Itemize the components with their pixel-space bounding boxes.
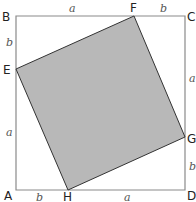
- side-label-top-a: a: [69, 2, 76, 15]
- vertex-label-f: F: [130, 1, 137, 15]
- vertex-label-d: D: [187, 189, 196, 202]
- side-label-bottom-b: b: [36, 191, 43, 202]
- vertex-label-a: A: [4, 189, 13, 202]
- side-label-right-a: a: [189, 72, 196, 85]
- side-label-right-b: b: [189, 160, 196, 173]
- side-label-left-a: a: [6, 126, 13, 139]
- vertex-label-h: H: [63, 190, 72, 202]
- vertex-label-g: G: [187, 132, 196, 146]
- side-label-left-b: b: [6, 36, 13, 49]
- vertex-label-c: C: [187, 10, 195, 24]
- pythagorean-diagram: B C D A E F G H a b b a a b b a: [0, 0, 196, 202]
- side-label-top-b: b: [160, 2, 167, 15]
- vertex-label-b: B: [2, 10, 10, 24]
- side-label-bottom-a: a: [124, 191, 131, 202]
- vertex-label-e: E: [3, 63, 11, 77]
